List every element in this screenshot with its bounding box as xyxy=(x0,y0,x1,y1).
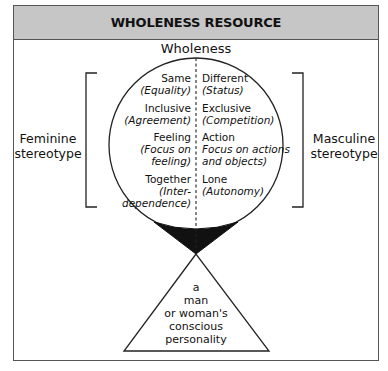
trait-note: (Focus on xyxy=(140,143,191,155)
trait-note: and objects) xyxy=(202,155,290,167)
masculine-stereotype-label: Masculine stereotype xyxy=(299,131,388,161)
trait-note: (Competition) xyxy=(202,114,274,126)
trait-note: Focus on actions xyxy=(202,143,290,155)
trait-term: Inclusive xyxy=(124,102,191,114)
trait-term: Same xyxy=(140,72,191,84)
trait-note: (Inter- xyxy=(122,185,191,197)
triangle-line: conscious xyxy=(136,320,256,333)
trait-together: Together (Inter- dependence) xyxy=(122,173,191,209)
triangle-line: personality xyxy=(136,333,256,346)
label-line: stereotype xyxy=(299,146,388,161)
trait-term: Different xyxy=(202,72,248,84)
funnel-shape xyxy=(154,222,238,254)
triangle-line: a xyxy=(136,281,256,294)
trait-action: Action Focus on actions and objects) xyxy=(202,131,290,167)
trait-term: Action xyxy=(202,131,290,143)
triangle-line: or woman's xyxy=(136,307,256,320)
trait-different: Different (Status) xyxy=(202,72,248,96)
trait-term: Feeling xyxy=(140,131,191,143)
label-line: Masculine xyxy=(299,131,388,146)
conscious-personality-text: a man or woman's conscious personality xyxy=(136,281,256,346)
trait-note: (Equality) xyxy=(140,84,191,96)
label-line: Feminine xyxy=(3,131,93,146)
trait-lone: Lone (Autonomy) xyxy=(202,173,264,197)
trait-inclusive: Inclusive (Agreement) xyxy=(124,102,191,126)
trait-feeling: Feeling (Focus on feeling) xyxy=(140,131,191,167)
label-line: stereotype xyxy=(3,146,93,161)
trait-term: Together xyxy=(122,173,191,185)
trait-term: Lone xyxy=(202,173,264,185)
trait-same: Same (Equality) xyxy=(140,72,191,96)
trait-exclusive: Exclusive (Competition) xyxy=(202,102,274,126)
feminine-stereotype-label: Feminine stereotype xyxy=(3,131,93,161)
wholeness-title: Wholeness xyxy=(136,41,256,56)
triangle-line: man xyxy=(136,294,256,307)
trait-note: feeling) xyxy=(140,155,191,167)
trait-note: (Autonomy) xyxy=(202,185,264,197)
trait-note: (Status) xyxy=(202,84,248,96)
trait-note: dependence) xyxy=(122,197,191,209)
trait-note: (Agreement) xyxy=(124,114,191,126)
trait-term: Exclusive xyxy=(202,102,274,114)
